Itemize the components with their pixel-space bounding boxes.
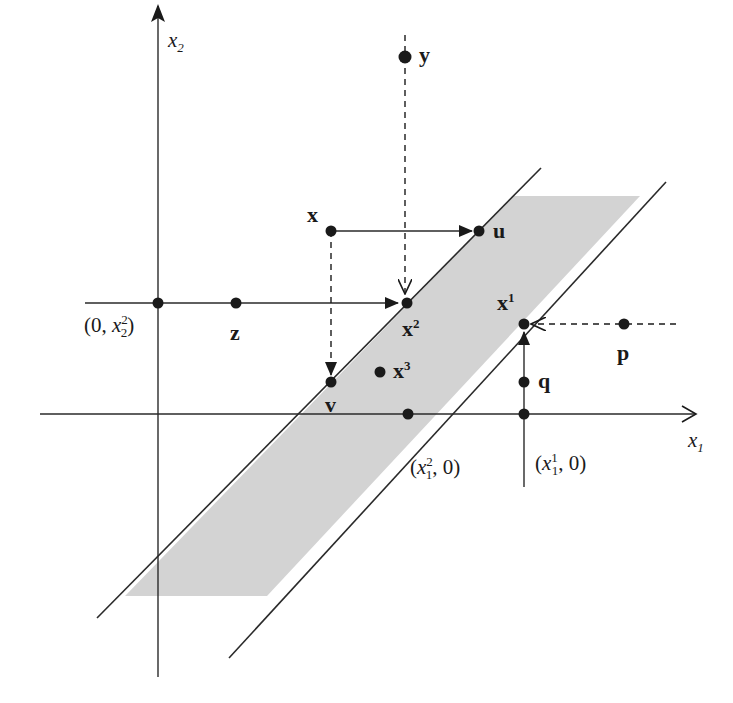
coord-var: x: [542, 451, 551, 475]
point-x-superscript-1: [519, 319, 530, 330]
point-x12-zero: [403, 409, 414, 420]
label-x1-base: x: [497, 290, 508, 315]
coord-open: (: [410, 455, 417, 479]
point-u: [474, 226, 485, 237]
point-x: [326, 226, 337, 237]
point-x-superscript-2: [402, 298, 413, 309]
point-p: [619, 319, 630, 330]
label-coord-0-x22: (0, x22): [84, 315, 134, 336]
label-x2-sup: 2: [413, 316, 420, 331]
coord-close: ): [127, 313, 134, 337]
coord-open: (: [535, 451, 542, 475]
band-right-boundary: [229, 182, 666, 658]
coord-close: , 0): [558, 451, 586, 475]
label-x3-sup: 3: [404, 358, 411, 373]
label-p: p: [617, 342, 629, 364]
projection-diagram: x2 x1 y x u z x2 x1 x3 p q v (0, x22) (x…: [0, 0, 733, 703]
x1-axis-label: x1: [688, 430, 704, 451]
x2-axis-label-var: x: [168, 28, 177, 52]
point-z: [231, 298, 242, 309]
label-y: y: [419, 44, 430, 66]
label-x-superscript-1: x1: [497, 292, 515, 314]
label-x2-base: x: [402, 316, 413, 341]
x2-axis-label-sub: 2: [177, 40, 184, 55]
label-x1-sup: 1: [508, 290, 515, 305]
point-q: [519, 377, 530, 388]
band-left-boundary: [97, 168, 541, 618]
label-x-superscript-3: x3: [393, 360, 411, 382]
point-origin-x22: [153, 298, 164, 309]
label-coord-x12-0: (x21, 0): [410, 457, 460, 478]
point-v: [326, 377, 337, 388]
point-y: [399, 51, 412, 64]
label-x-superscript-2: x2: [402, 318, 420, 340]
label-u: u: [493, 220, 505, 242]
label-v: v: [325, 394, 336, 416]
label-q: q: [538, 370, 550, 392]
label-z: z: [230, 322, 240, 344]
label-coord-x11-0: (x11, 0): [535, 453, 586, 474]
point-x11-zero: [519, 409, 530, 420]
label-x: x: [307, 204, 318, 226]
x1-axis-label-var: x: [688, 428, 697, 452]
label-x3-base: x: [393, 358, 404, 383]
point-x-superscript-3: [375, 367, 386, 378]
coord-open: (0,: [84, 313, 112, 337]
x2-axis-label: x2: [168, 30, 184, 51]
x1-axis-label-sub: 1: [697, 440, 704, 455]
coord-close: , 0): [432, 455, 460, 479]
shaded-band-region: [125, 196, 640, 596]
